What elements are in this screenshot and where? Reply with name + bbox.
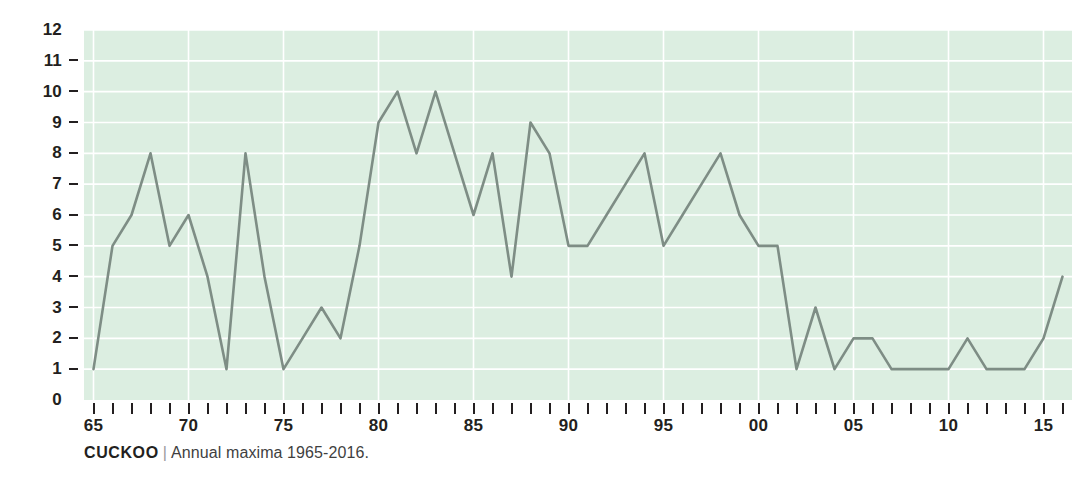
y-axis: 1211109876543210 [0,0,84,430]
x-tick [473,403,475,414]
x-tick [910,403,912,414]
x-tick [967,403,969,414]
y-tick-dash [69,29,78,31]
x-tick [245,403,247,414]
y-tick-7: 7 [0,175,78,193]
x-tick [739,403,741,414]
x-tick [150,403,152,414]
plot-area [84,30,1072,400]
x-tick-label: 05 [832,416,876,436]
x-tick [416,403,418,414]
x-tick [302,403,304,414]
x-tick [663,403,665,414]
y-tick-0: 0 [0,391,78,409]
x-tick-label: 15 [1022,416,1066,436]
x-tick-label: 75 [262,416,306,436]
y-tick-dash [69,59,78,61]
y-tick-label: 12 [43,21,62,39]
x-tick [1005,403,1007,414]
caption-series-name: CUCKOO [84,444,159,461]
x-tick [1024,403,1026,414]
y-tick-label: 7 [52,175,62,193]
x-tick [511,403,513,414]
y-tick-dash [69,183,78,185]
y-tick-10: 10 [0,83,78,101]
y-tick-dash [69,275,78,277]
y-tick-label: 3 [52,299,62,317]
x-tick [549,403,551,414]
x-tick-label: 90 [547,416,591,436]
y-tick-label: 10 [43,83,62,101]
x-tick [606,403,608,414]
x-tick [1043,403,1045,414]
y-tick-dash [69,121,78,123]
x-tick [986,403,988,414]
x-tick [777,403,779,414]
y-tick-9: 9 [0,114,78,132]
x-tick [340,403,342,414]
x-tick [112,403,114,414]
y-tick-dash [69,152,78,154]
x-tick [321,403,323,414]
x-tick [435,403,437,414]
x-tick-label: 85 [452,416,496,436]
y-tick-dash [69,244,78,246]
x-axis: 6570758085909500051015 [84,400,1072,440]
y-tick-label: 4 [52,268,62,286]
y-tick-dash [69,90,78,92]
x-tick [929,403,931,414]
x-tick-label: 80 [357,416,401,436]
y-tick-dash [69,306,78,308]
y-tick-11: 11 [0,52,78,70]
y-tick-label: 0 [52,391,62,409]
caption: CUCKOO|Annual maxima 1965-2016. [84,444,369,462]
y-tick-4: 4 [0,268,78,286]
x-tick [359,403,361,414]
x-tick-label: 65 [72,416,116,436]
x-tick-label: 10 [927,416,971,436]
caption-description: Annual maxima 1965-2016. [171,444,369,461]
series-line-cuckoo [84,30,1072,400]
x-tick [682,403,684,414]
x-tick [397,403,399,414]
x-tick [701,403,703,414]
x-tick [568,403,570,414]
x-tick [815,403,817,414]
y-tick-label: 11 [44,52,62,70]
x-tick [188,403,190,414]
y-tick-3: 3 [0,299,78,317]
x-tick [758,403,760,414]
y-tick-2: 2 [0,329,78,347]
x-tick-label: 00 [737,416,781,436]
cuckoo-annual-maxima-chart: 1211109876543210 6570758085909500051015 … [0,0,1084,490]
y-tick-label: 1 [52,360,62,378]
y-tick-label: 2 [52,329,62,347]
y-tick-label: 5 [52,237,62,255]
y-tick-dash [69,368,78,370]
x-tick-label: 70 [167,416,211,436]
caption-separator: | [159,444,171,461]
y-tick-label: 8 [52,144,62,162]
x-tick-label: 95 [642,416,686,436]
y-tick-dash [69,399,78,401]
y-tick-12: 12 [0,21,78,39]
x-tick [454,403,456,414]
x-tick [131,403,133,414]
y-tick-label: 6 [52,206,62,224]
x-tick [530,403,532,414]
x-tick [948,403,950,414]
x-tick [891,403,893,414]
x-tick [796,403,798,414]
x-tick [853,403,855,414]
y-tick-dash [69,214,78,216]
x-tick [169,403,171,414]
x-tick [834,403,836,414]
x-tick [1062,403,1064,414]
x-tick [226,403,228,414]
x-tick [587,403,589,414]
x-tick [378,403,380,414]
x-tick [264,403,266,414]
x-tick [283,403,285,414]
x-tick [872,403,874,414]
x-tick [720,403,722,414]
